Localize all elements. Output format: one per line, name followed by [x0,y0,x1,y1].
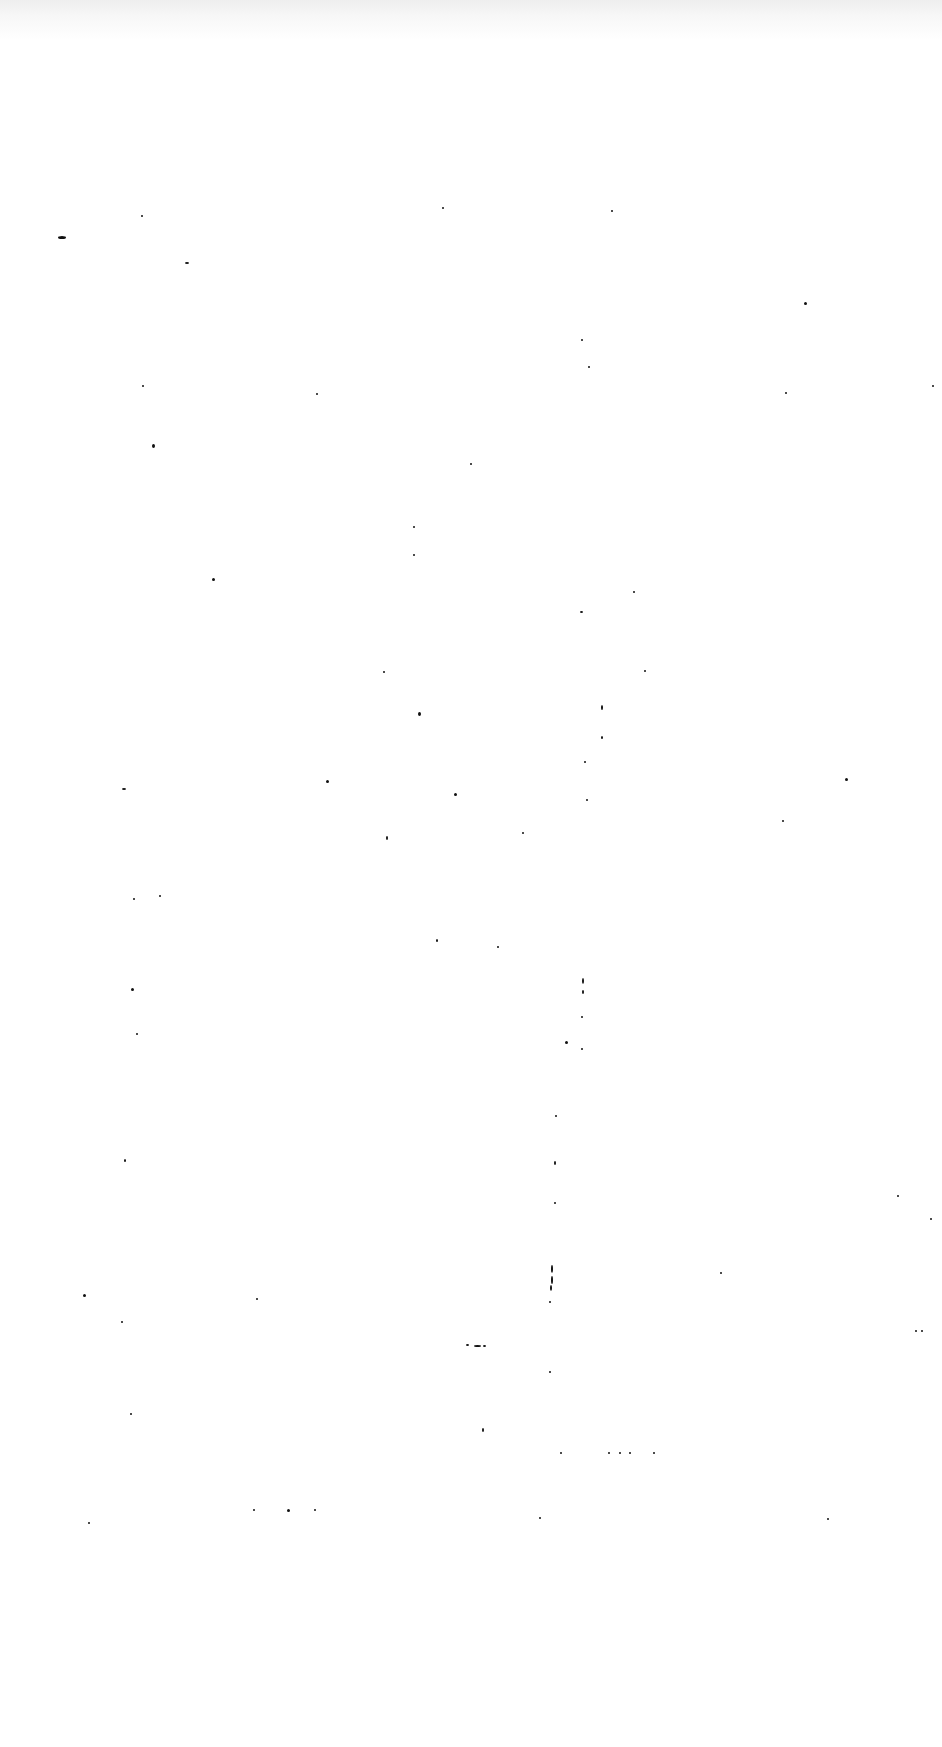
scan-speck [581,339,583,341]
scan-speck [83,1294,86,1297]
scan-speck [152,444,155,448]
scan-speck [159,895,161,897]
scan-speck [611,210,613,212]
scan-speck [124,1159,126,1162]
scan-speck [921,1330,923,1332]
scan-speck [386,836,388,840]
scan-speck [554,1202,556,1204]
scan-speck [253,1509,255,1511]
scan-speck [539,1517,541,1519]
scan-speck [720,1272,722,1274]
scan-speck [581,1016,583,1018]
scan-speck [915,1330,917,1332]
scan-speck [560,1452,562,1454]
scan-speck [133,898,135,900]
scan-speck [551,1265,553,1273]
scan-speck [413,526,415,528]
scan-speck [601,705,603,710]
scan-speck [436,939,438,942]
scan-speck [608,1452,610,1454]
scan-speck [122,788,126,790]
scan-speck [482,1428,484,1432]
scan-speck [466,1344,469,1346]
scan-speck [287,1509,290,1512]
scan-speck [212,578,215,581]
scan-speck [442,207,444,209]
scan-speck [418,712,421,716]
scan-speck [555,1115,557,1117]
scan-speck [565,1041,568,1044]
scan-speck [629,1452,631,1454]
scan-speck [804,302,807,305]
scan-speck [551,1276,553,1284]
scan-speck [58,236,66,239]
scan-speck [142,385,144,387]
scan-speck [326,780,329,783]
scan-speck [383,671,385,673]
scan-speck [582,990,584,994]
scan-speck [130,1413,132,1415]
scan-speck [785,392,787,394]
scan-speck [549,1301,551,1303]
scan-speck [584,761,586,763]
scan-speck [827,1518,829,1520]
scan-speck [932,385,934,387]
scan-speck [136,1033,138,1035]
scan-speck [601,736,603,739]
scan-speck [580,611,583,613]
scan-speck [549,1371,551,1373]
scan-speck [483,1345,486,1347]
scan-speck [522,832,524,834]
scan-speck [588,366,590,368]
scan-speck [185,262,189,264]
scan-speck [256,1298,258,1300]
scan-speck [88,1522,90,1524]
scan-speck [550,1285,552,1291]
scan-speck [554,1161,556,1165]
scan-speck [586,799,588,801]
scan-speck [653,1452,655,1454]
scan-speck [619,1452,621,1454]
scan-speck [845,778,848,781]
scan-speck [141,215,143,217]
scan-speck [470,463,472,465]
scan-speck [121,1321,123,1323]
scan-speck [314,1509,316,1511]
scan-speck [644,670,646,672]
scan-speck [581,1048,583,1050]
scan-speck [897,1195,899,1197]
scan-speck [497,946,499,948]
blank-scanned-page [0,0,942,1747]
scan-speck [474,1345,481,1347]
scan-speck [582,978,584,984]
scan-speck [930,1218,932,1220]
scan-speck [131,988,134,991]
scan-speck [316,393,318,395]
scan-speck [454,793,457,796]
scan-speck [782,820,784,822]
scan-speck [413,554,415,556]
scan-speck [633,591,635,593]
